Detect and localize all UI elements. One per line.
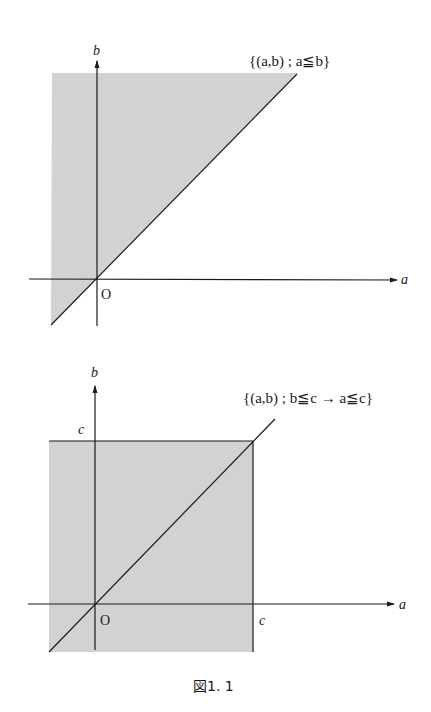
x-axis-label: a [401, 272, 408, 287]
x-axis-label: a [399, 597, 406, 612]
figure-caption: 図1. 1 [193, 678, 234, 694]
origin-label: O [101, 287, 111, 302]
figure-canvas: b a O {(a,b) ; a≦b} b a O c c {(a,b) ; b… [0, 0, 431, 712]
c-right-label: c [259, 613, 266, 628]
y-axis-label: b [91, 365, 98, 380]
c-top-label: c [78, 422, 85, 437]
origin-label: O [100, 613, 110, 628]
figure-2: b a O c c {(a,b) ; b≦c → a≦c} [28, 365, 406, 652]
y-axis-label: b [93, 43, 100, 58]
figure-1: b a O {(a,b) ; a≦b} [29, 43, 408, 326]
set-label: {(a,b) ; b≦c → a≦c} [243, 390, 373, 407]
set-label: {(a,b) ; a≦b} [249, 53, 330, 70]
